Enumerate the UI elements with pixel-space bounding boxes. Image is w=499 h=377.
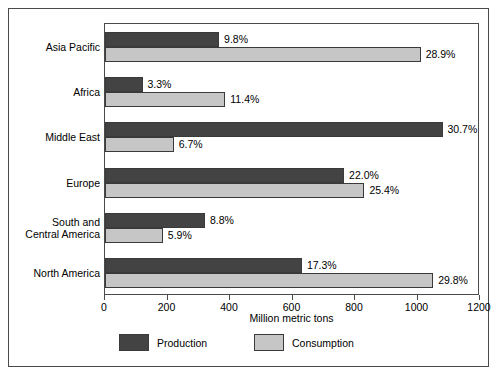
legend-item-consumption[interactable]: Consumption bbox=[254, 334, 354, 351]
plot-area: Asia Pacific9.8%28.9%Africa3.3%11.4%Midd… bbox=[104, 23, 479, 295]
bar-value-label: 5.9% bbox=[168, 228, 192, 243]
x-axis-tick bbox=[229, 295, 230, 300]
bar-production[interactable] bbox=[105, 122, 443, 137]
bar-consumption[interactable] bbox=[105, 92, 225, 107]
bar-consumption[interactable] bbox=[105, 137, 174, 152]
bar-value-label: 6.7% bbox=[179, 137, 203, 152]
chart-figure-frame: Asia Pacific9.8%28.9%Africa3.3%11.4%Midd… bbox=[8, 8, 489, 367]
category-label: Europe bbox=[66, 177, 100, 189]
bar-consumption[interactable] bbox=[105, 228, 163, 243]
bar-group: Middle East30.7%6.7% bbox=[105, 122, 478, 152]
bar-production[interactable] bbox=[105, 258, 302, 273]
bar-value-label: 25.4% bbox=[369, 183, 399, 198]
bar-groups-container: Asia Pacific9.8%28.9%Africa3.3%11.4%Midd… bbox=[105, 24, 478, 294]
category-label: Africa bbox=[73, 86, 100, 98]
legend-swatch-production-icon bbox=[119, 334, 149, 351]
bar-production[interactable] bbox=[105, 213, 205, 228]
category-label: Middle East bbox=[45, 131, 100, 143]
bar-value-label: 30.7% bbox=[448, 122, 478, 137]
bar-production[interactable] bbox=[105, 77, 143, 92]
bar-production[interactable] bbox=[105, 32, 219, 47]
category-label: South and Central America bbox=[25, 216, 100, 240]
bar-group: South and Central America8.8%5.9% bbox=[105, 213, 478, 243]
bar-production[interactable] bbox=[105, 168, 344, 183]
category-label: North America bbox=[33, 267, 100, 279]
x-axis-tick bbox=[479, 295, 480, 300]
bar-value-label: 17.3% bbox=[307, 258, 337, 273]
bar-consumption[interactable] bbox=[105, 273, 433, 288]
x-axis: 020040060080010001200 bbox=[104, 295, 479, 296]
category-label: Asia Pacific bbox=[46, 41, 100, 53]
legend-swatch-consumption-icon bbox=[254, 334, 284, 351]
legend-item-production[interactable]: Production bbox=[119, 334, 207, 351]
bar-value-label: 3.3% bbox=[148, 77, 172, 92]
bar-value-label: 22.0% bbox=[349, 168, 379, 183]
bar-value-label: 8.8% bbox=[210, 213, 234, 228]
chart-legend: Production Consumption bbox=[104, 334, 479, 356]
legend-label-production: Production bbox=[157, 337, 207, 349]
bar-group: North America17.3%29.8% bbox=[105, 258, 478, 288]
bar-group: Europe22.0%25.4% bbox=[105, 168, 478, 198]
bar-group: Asia Pacific9.8%28.9% bbox=[105, 32, 478, 62]
x-axis-title: Million metric tons bbox=[104, 312, 479, 324]
x-axis-tick bbox=[354, 295, 355, 300]
bar-group: Africa3.3%11.4% bbox=[105, 77, 478, 107]
x-axis-tick bbox=[417, 295, 418, 300]
bar-value-label: 9.8% bbox=[224, 32, 248, 47]
bar-value-label: 29.8% bbox=[438, 273, 468, 288]
bar-value-label: 28.9% bbox=[426, 47, 456, 62]
x-axis-tick bbox=[104, 295, 105, 300]
x-axis-tick bbox=[167, 295, 168, 300]
bar-consumption[interactable] bbox=[105, 47, 421, 62]
bar-consumption[interactable] bbox=[105, 183, 364, 198]
x-axis-tick bbox=[292, 295, 293, 300]
bar-value-label: 11.4% bbox=[230, 92, 259, 107]
legend-label-consumption: Consumption bbox=[292, 337, 354, 349]
